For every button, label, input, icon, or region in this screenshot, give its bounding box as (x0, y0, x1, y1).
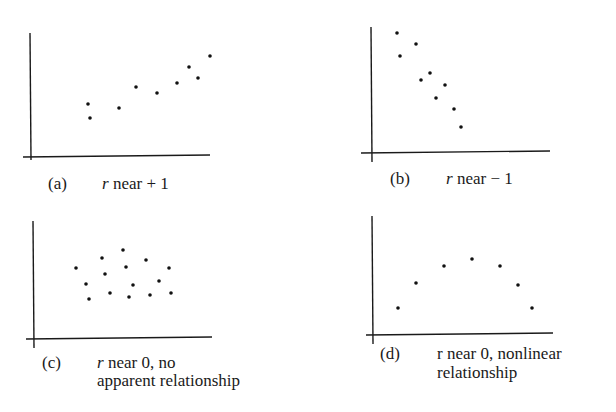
panel-c-x-axis (26, 337, 212, 339)
panel-a-tag: (a) (48, 174, 67, 193)
data-point (100, 256, 104, 260)
panel-d-points (396, 257, 534, 310)
data-point (414, 42, 418, 46)
panel-c-y-axis (33, 221, 34, 348)
panel-d-tag: (d) (380, 344, 400, 363)
data-point (395, 31, 399, 35)
data-point (84, 282, 88, 286)
data-point (396, 306, 400, 310)
data-point (169, 291, 173, 295)
panel-d-caption-line2: relationship (437, 363, 517, 382)
panel-b-caption: r near − 1 (446, 169, 513, 188)
panel-b-caption-text: near − 1 (453, 169, 513, 188)
data-point (442, 264, 446, 268)
data-point (155, 91, 159, 95)
data-point (88, 116, 92, 120)
data-point (134, 85, 138, 89)
data-point (516, 283, 520, 287)
data-point (196, 76, 200, 80)
data-point (121, 248, 125, 252)
data-point (498, 264, 502, 268)
panel-b-y-axis (371, 27, 372, 162)
data-point (443, 83, 447, 87)
panel-d-caption: r near 0, nonlinear (437, 344, 562, 363)
panel-c-points (74, 248, 173, 301)
data-point (208, 54, 212, 58)
panel-c-caption-line2: apparent relationship (97, 371, 240, 390)
data-point (124, 265, 128, 269)
data-point (131, 283, 135, 287)
figure-canvas: (a) r near + 1 (b) r near − 1 (c) r near… (0, 0, 616, 412)
data-point (175, 81, 179, 85)
panel-d-y-axis (372, 216, 373, 344)
data-point (428, 71, 432, 75)
data-point (398, 54, 402, 58)
panel-d: (d) r near 0, nonlinear relationship (366, 216, 562, 382)
data-point (87, 297, 91, 301)
panel-a-points (86, 54, 212, 120)
data-point (144, 258, 148, 262)
data-point (74, 266, 78, 270)
data-point (187, 65, 191, 69)
data-point (470, 257, 474, 261)
panel-a-caption-text: near + 1 (109, 174, 169, 193)
panel-d-x-axis (366, 333, 553, 335)
data-point (459, 125, 463, 129)
data-point (86, 102, 90, 106)
panel-d-caption-text: near 0, nonlinear (443, 344, 562, 363)
panel-b: (b) r near − 1 (361, 27, 550, 188)
data-point (117, 106, 121, 110)
panel-a-y-axis (30, 33, 31, 160)
panel-a-x-axis (23, 155, 210, 157)
panel-d-axes (366, 216, 553, 344)
panel-a-caption: r near + 1 (102, 174, 169, 193)
data-point (452, 107, 456, 111)
data-point (108, 291, 112, 295)
panel-c-caption-text: near 0, no (104, 353, 176, 372)
panel-b-axes (361, 27, 550, 162)
correlation-figure: (a) r near + 1 (b) r near − 1 (c) r near… (0, 0, 616, 412)
data-point (103, 272, 107, 276)
panel-b-tag: (b) (390, 169, 410, 188)
panel-b-x-axis (361, 151, 550, 153)
data-point (414, 281, 418, 285)
data-point (419, 78, 423, 82)
data-point (167, 266, 171, 270)
panel-b-points (395, 31, 463, 129)
panel-c-axes (26, 221, 212, 348)
data-point (434, 96, 438, 100)
data-point (127, 295, 131, 299)
panel-c-tag: (c) (42, 353, 61, 372)
panel-c-caption: r near 0, no (97, 353, 175, 372)
data-point (148, 293, 152, 297)
data-point (157, 279, 161, 283)
data-point (530, 306, 534, 310)
panel-a: (a) r near + 1 (23, 33, 212, 193)
panel-a-axes (23, 33, 210, 160)
panel-c: (c) r near 0, no apparent relationship (26, 221, 240, 390)
